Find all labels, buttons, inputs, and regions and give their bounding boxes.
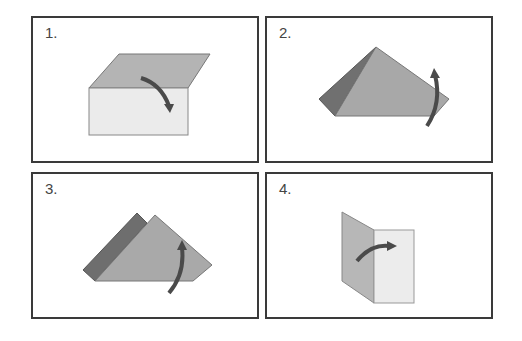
fold-illustration [33, 174, 261, 321]
fold-illustration [267, 18, 495, 165]
step-panel-3: 3. [31, 172, 259, 319]
step-panel-1: 1. [31, 16, 259, 163]
arrow-icon [430, 68, 440, 78]
step-panel-4: 4. [265, 172, 493, 319]
fold-illustration [33, 18, 261, 165]
step-panel-2: 2. [265, 16, 493, 163]
fold-illustration [267, 174, 495, 321]
